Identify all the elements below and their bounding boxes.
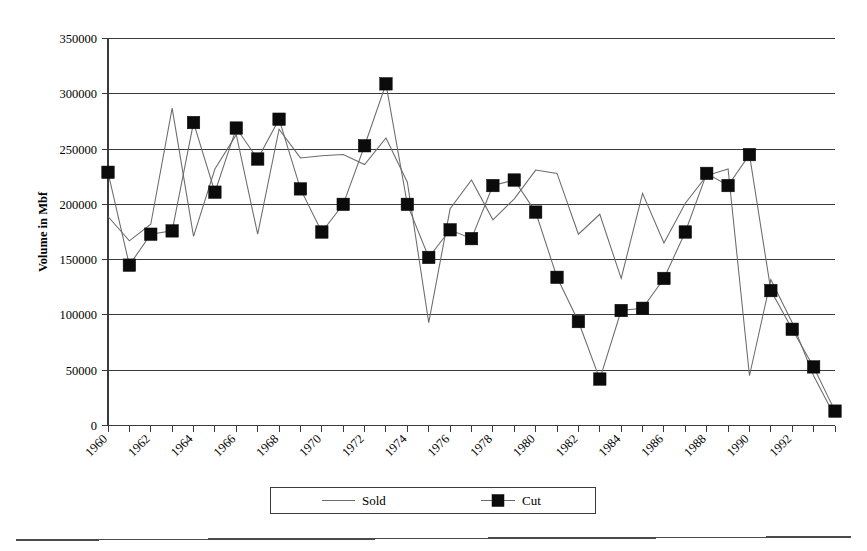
data-point-cut-1978 [487,179,500,192]
series-layer [102,78,842,418]
volume-line-chart: 0500001000001500002000002500003000003500… [0,0,867,551]
y-tick-marks [102,39,108,426]
y-tick-label-250000: 250000 [60,143,98,157]
data-point-cut-1977 [465,232,478,245]
x-tick-label-1978: 1978 [467,432,495,460]
x-tick-label-1986: 1986 [638,432,666,460]
data-point-cut-1994 [829,405,842,418]
x-tick-label-1974: 1974 [382,431,410,459]
data-point-cut-1965 [209,186,222,199]
y-tick-label-200000: 200000 [60,198,98,212]
data-point-cut-1966 [230,122,243,135]
y-tick-label-50000: 50000 [66,364,97,378]
y-tick-labels: 0500001000001500002000002500003000003500… [60,32,98,433]
data-point-cut-1961 [123,259,136,272]
data-point-cut-1968 [273,113,286,126]
x-tick-label-1982: 1982 [553,432,581,460]
y-axis-title: Volume in Mbf [36,191,50,272]
data-point-cut-1986 [658,272,671,285]
data-point-cut-1985 [636,302,649,315]
data-point-cut-1963 [166,225,179,238]
y-tick-label-150000: 150000 [60,253,98,267]
x-tick-label-1980: 1980 [510,432,538,460]
data-point-cut-1993 [807,361,820,374]
chart-legend: Sold Cut [270,487,595,513]
data-point-cut-1984 [615,304,628,317]
x-tick-label-1990: 1990 [724,432,752,460]
data-point-cut-1988 [700,167,713,180]
data-point-cut-1979 [508,174,521,187]
data-point-cut-1973 [380,78,393,91]
data-point-cut-1976 [444,224,457,237]
x-tick-labels: 1960196219641966196819701972197419761978… [83,431,795,459]
x-tick-marks [108,426,835,432]
x-tick-label-1968: 1968 [254,432,282,460]
series-line-cut [108,84,835,411]
y-tick-label-100000: 100000 [60,308,98,322]
data-point-cut-1971 [337,198,350,211]
chart-figure: 0500001000001500002000002500003000003500… [0,0,867,551]
footer-divider [16,537,851,540]
data-point-cut-1974 [401,198,414,211]
y-gridlines [108,39,835,371]
data-point-cut-1981 [551,271,564,284]
data-point-cut-1989 [722,179,735,192]
x-tick-label-1972: 1972 [339,432,367,460]
data-point-cut-1992 [786,323,799,336]
x-tick-label-1992: 1992 [767,432,795,460]
legend-swatch-cut-square [492,495,504,507]
data-point-cut-1975 [422,251,435,264]
data-point-cut-1969 [294,183,307,196]
legend-label-cut: Cut [522,493,541,508]
data-point-cut-1964 [187,116,200,129]
x-tick-label-1962: 1962 [125,432,153,460]
series-markers-cut [102,78,842,418]
data-point-cut-1980 [529,206,542,219]
y-tick-label-300000: 300000 [60,87,98,101]
data-point-cut-1960 [102,166,115,179]
data-point-cut-1967 [251,153,264,166]
legend-label-sold: Sold [362,493,386,508]
data-point-cut-1970 [316,226,329,239]
data-point-cut-1962 [145,228,158,241]
data-point-cut-1972 [358,140,371,153]
x-tick-label-1988: 1988 [681,432,709,460]
y-tick-label-0: 0 [91,419,97,433]
legend-border [270,487,595,513]
x-tick-label-1984: 1984 [596,431,624,459]
x-tick-label-1976: 1976 [425,432,453,460]
x-tick-label-1970: 1970 [296,432,324,460]
x-tick-label-1964: 1964 [168,431,196,459]
data-point-cut-1983 [594,373,607,386]
y-tick-label-350000: 350000 [60,32,98,46]
data-point-cut-1991 [765,284,778,297]
data-point-cut-1990 [743,148,756,161]
x-tick-label-1966: 1966 [211,432,239,460]
data-point-cut-1987 [679,226,692,239]
data-point-cut-1982 [572,315,585,328]
x-tick-label-1960: 1960 [83,432,111,460]
